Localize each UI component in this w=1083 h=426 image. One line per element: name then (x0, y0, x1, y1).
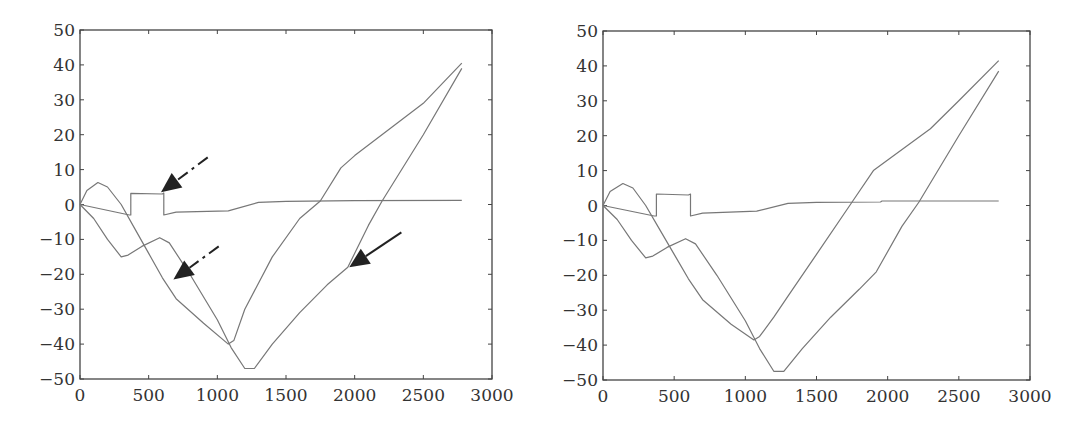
x-tick-label: 3000 (470, 385, 513, 405)
series-curve-b (80, 68, 462, 368)
annotation-arrow-shaft (366, 232, 402, 256)
y-tick-label: −10 (39, 229, 75, 249)
y-tick-label: 0 (587, 196, 598, 216)
plot-frame (603, 31, 1030, 380)
x-tick-label: 500 (132, 385, 164, 405)
right-chart: 050010001500200025003000−50−40−30−20−100… (562, 21, 1052, 406)
y-tick-label: 40 (53, 55, 75, 75)
series-curve-b (603, 71, 999, 371)
y-tick-label: −40 (39, 334, 75, 354)
y-tick-label: −50 (562, 370, 598, 390)
x-tick-label: 0 (598, 386, 609, 406)
series-curve-a (603, 61, 999, 340)
x-tick-label: 2000 (866, 386, 909, 406)
annotation-arrow-shaft (190, 246, 219, 267)
y-tick-label: 10 (53, 160, 75, 180)
plot-frame (80, 30, 492, 379)
x-tick-label: 1000 (724, 386, 767, 406)
y-tick-label: 50 (576, 21, 598, 41)
y-tick-label: −10 (562, 230, 598, 250)
left-chart: 050010001500200025003000−50−40−30−20−100… (39, 20, 514, 405)
series-curve-c (80, 193, 462, 215)
y-tick-label: 30 (576, 91, 598, 111)
x-tick-label: 0 (75, 385, 86, 405)
annotation-arrow-shaft (177, 157, 208, 180)
x-tick-label: 1000 (196, 385, 239, 405)
series-curve-a (80, 63, 462, 344)
y-tick-label: 0 (64, 195, 75, 215)
annotation-arrow-head-icon (161, 173, 182, 192)
y-tick-label: −50 (39, 369, 75, 389)
y-tick-label: 10 (576, 161, 598, 181)
y-tick-label: 20 (53, 125, 75, 145)
y-tick-label: −20 (562, 265, 598, 285)
x-tick-label: 2500 (402, 385, 445, 405)
figure-canvas: 050010001500200025003000−50−40−30−20−100… (0, 0, 1083, 426)
y-tick-label: 40 (576, 56, 598, 76)
y-tick-label: 20 (576, 126, 598, 146)
x-tick-label: 3000 (1008, 386, 1051, 406)
y-tick-label: 30 (53, 90, 75, 110)
x-tick-label: 2500 (937, 386, 980, 406)
x-tick-label: 1500 (264, 385, 307, 405)
x-tick-label: 500 (658, 386, 690, 406)
x-tick-label: 2000 (333, 385, 376, 405)
y-tick-label: −30 (39, 299, 75, 319)
series-curve-c (603, 194, 999, 216)
y-tick-label: −40 (562, 335, 598, 355)
y-tick-label: −20 (39, 264, 75, 284)
y-tick-label: 50 (53, 20, 75, 40)
x-tick-label: 1500 (795, 386, 838, 406)
y-tick-label: −30 (562, 300, 598, 320)
